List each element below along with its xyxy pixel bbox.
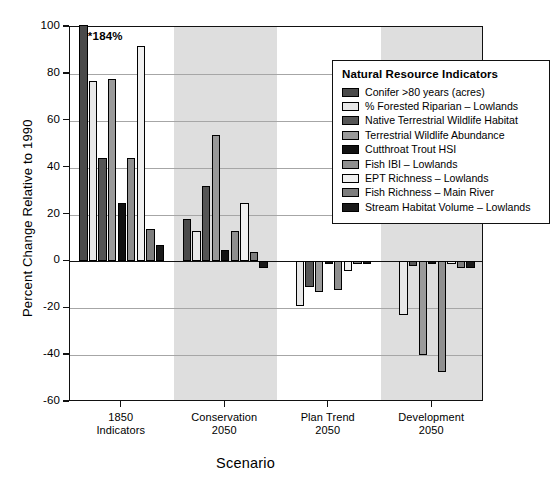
- legend-label: % Forested Riparian – Lowlands: [365, 101, 518, 112]
- x-axis-tick-mark: [224, 401, 225, 407]
- legend-label: Native Terrestrial Wildlife Habitat: [365, 115, 518, 126]
- bar: [363, 261, 371, 263]
- legend-item: Fish IBI – Lowlands: [342, 157, 540, 171]
- y-axis-tick-label: -40: [16, 348, 60, 360]
- bar: [457, 261, 465, 268]
- legend-title: Natural Resource Indicators: [342, 68, 540, 80]
- legend-label: Fish Richness – Main River: [365, 187, 494, 198]
- y-axis-tick-label: 20: [16, 208, 60, 220]
- legend-label: EPT Richness – Lowlands: [365, 173, 488, 184]
- bar: [250, 252, 258, 261]
- bar: [325, 261, 333, 263]
- x-axis-tick-label: Conservation2050: [164, 411, 284, 437]
- bar: [466, 261, 474, 268]
- legend-item: EPT Richness – Lowlands: [342, 171, 540, 185]
- bar: [438, 261, 446, 371]
- legend-swatch: [342, 88, 359, 97]
- bar: [146, 229, 154, 262]
- x-axis-title: Scenario: [0, 455, 491, 471]
- legend-label: Stream Habitat Volume – Lowlands: [365, 202, 530, 213]
- bar: [118, 203, 126, 262]
- legend: Natural Resource Indicators Conifer >80 …: [332, 60, 550, 224]
- legend-swatch: [342, 116, 359, 125]
- bar: [231, 231, 239, 261]
- x-axis-tick-mark: [431, 401, 432, 407]
- bar: [183, 219, 191, 261]
- legend-swatch: [342, 188, 359, 197]
- x-axis-tick-label-line: Plan Trend: [268, 411, 388, 424]
- bar: [192, 231, 200, 261]
- legend-item: Cutthroat Trout HSI: [342, 143, 540, 157]
- legend-item: Fish Richness – Main River: [342, 186, 540, 200]
- bar: [305, 261, 313, 287]
- x-axis-tick-mark: [327, 401, 328, 407]
- x-axis-tick-label: Development2050: [371, 411, 491, 437]
- x-axis-tick-label-line: Development: [371, 411, 491, 424]
- x-axis-tick-label-line: 2050: [371, 424, 491, 437]
- legend-swatch: [342, 131, 359, 140]
- legend-item: Native Terrestrial Wildlife Habitat: [342, 114, 540, 128]
- bar: [127, 158, 135, 261]
- legend-item: Stream Habitat Volume – Lowlands: [342, 200, 540, 214]
- x-axis-tick-label-line: 1850: [61, 411, 181, 424]
- y-axis-tick-label: -60: [16, 395, 60, 407]
- legend-label: Terrestrial Wildlife Abundance: [365, 130, 505, 141]
- bar: [212, 135, 220, 262]
- legend-item: % Forested Riparian – Lowlands: [342, 99, 540, 113]
- bar: [89, 81, 97, 261]
- y-axis-tick-label: 40: [16, 161, 60, 173]
- bar: [79, 25, 87, 261]
- x-axis-tick-label-line: Conservation: [164, 411, 284, 424]
- legend-rows: Conifer >80 years (acres)% Forested Ripa…: [342, 85, 540, 215]
- x-axis-tick-label-line: Indicators: [61, 424, 181, 437]
- x-axis-tick-mark: [120, 401, 121, 407]
- y-axis-tick-label: 0: [16, 254, 60, 266]
- bar: [409, 261, 417, 266]
- bar: [202, 186, 210, 261]
- bar: [240, 203, 248, 262]
- x-axis-tick-label: 1850Indicators: [61, 411, 181, 437]
- x-axis-tick-label: Plan Trend2050: [268, 411, 388, 437]
- bar: [353, 261, 361, 263]
- bar: [399, 261, 407, 315]
- bar: [315, 261, 323, 291]
- y-axis-tick-label: 100: [16, 20, 60, 32]
- bar: [137, 46, 145, 262]
- bar: [221, 250, 229, 262]
- legend-swatch: [342, 174, 359, 183]
- x-axis-tick-label-line: 2050: [268, 424, 388, 437]
- x-axis-tick-label-line: 2050: [164, 424, 284, 437]
- bar: [419, 261, 427, 355]
- bar: [428, 261, 436, 263]
- bar: [108, 79, 116, 262]
- legend-label: Conifer >80 years (acres): [365, 87, 485, 98]
- legend-swatch: [342, 203, 359, 212]
- y-axis-tick-label: 80: [16, 67, 60, 79]
- legend-item: Terrestrial Wildlife Abundance: [342, 128, 540, 142]
- legend-label: Cutthroat Trout HSI: [365, 144, 456, 155]
- legend-swatch: [342, 145, 359, 154]
- legend-swatch: [342, 160, 359, 169]
- bar: [98, 158, 106, 261]
- plot-area: *184% Natural Resource Indicators Conife…: [69, 26, 483, 401]
- legend-swatch: [342, 102, 359, 111]
- bar: [447, 261, 455, 263]
- legend-item: Conifer >80 years (acres): [342, 85, 540, 99]
- annotation-184-percent: *184%: [88, 30, 123, 42]
- bar: [344, 261, 352, 270]
- bar: [296, 261, 304, 306]
- legend-label: Fish IBI – Lowlands: [365, 159, 457, 170]
- y-axis-tick-label: -20: [16, 301, 60, 313]
- bar: [334, 261, 342, 289]
- bar: [156, 245, 164, 261]
- y-axis-tick-label: 60: [16, 114, 60, 126]
- bar: [259, 261, 267, 268]
